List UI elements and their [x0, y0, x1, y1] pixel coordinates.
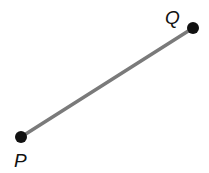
point-label-q: Q [165, 8, 180, 27]
segment-pq-line [21, 28, 193, 137]
geometry-figure-canvas: P Q [0, 0, 209, 173]
endpoint-dot-q [187, 22, 199, 34]
endpoint-dot-p [15, 131, 27, 143]
point-label-p: P [14, 151, 27, 170]
